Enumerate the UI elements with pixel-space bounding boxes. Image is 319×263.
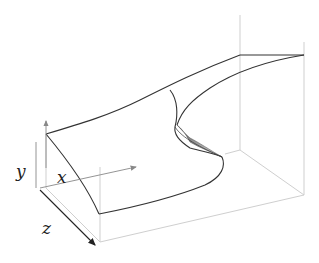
box-back-left-bottom xyxy=(225,150,240,154)
box-left-bottom-edge xyxy=(46,188,100,242)
surface-top-edge xyxy=(46,55,240,134)
fold-shading xyxy=(177,125,222,157)
surface-bottom-edge xyxy=(99,157,223,214)
y-axis-label: y xyxy=(15,161,26,181)
box-front-bottom-edge xyxy=(100,195,304,242)
cusp-surface-diagram: y x z xyxy=(0,0,319,263)
surface-left-edge xyxy=(46,134,99,214)
surface xyxy=(46,55,304,214)
x-axis-label: x xyxy=(57,167,67,187)
z-axis-label: z xyxy=(41,218,52,238)
box-back-bottom-edge xyxy=(240,150,304,195)
x-axis-arrow xyxy=(40,167,136,188)
